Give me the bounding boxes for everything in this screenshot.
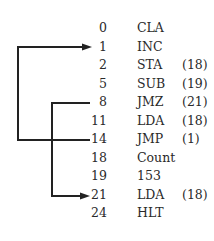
mnemonic: JMP bbox=[137, 130, 163, 148]
instruction-row: 5 SUB (19) bbox=[0, 75, 214, 93]
address: 2 bbox=[99, 56, 107, 74]
instruction-row: 21 LDA (18) bbox=[0, 186, 214, 204]
address: 1 bbox=[99, 38, 107, 56]
address: 21 bbox=[91, 186, 107, 204]
address: 19 bbox=[91, 167, 107, 185]
operand: (21) bbox=[182, 93, 208, 111]
address: 18 bbox=[91, 149, 107, 167]
instruction-row: 11 LDA (18) bbox=[0, 112, 214, 130]
mnemonic: CLA bbox=[137, 19, 164, 37]
mnemonic: INC bbox=[137, 38, 162, 56]
address: 8 bbox=[99, 93, 107, 111]
address: 5 bbox=[99, 75, 107, 93]
mnemonic: LDA bbox=[137, 112, 164, 130]
address: 11 bbox=[91, 112, 107, 130]
instruction-row: 18 Count bbox=[0, 149, 214, 167]
operand: (1) bbox=[182, 130, 200, 148]
address: 24 bbox=[91, 204, 107, 222]
instruction-row: 19 153 bbox=[0, 167, 214, 185]
mnemonic: STA bbox=[137, 56, 162, 74]
mnemonic: SUB bbox=[137, 75, 165, 93]
operand: (18) bbox=[182, 186, 208, 204]
operand: (18) bbox=[182, 112, 208, 130]
operand: (19) bbox=[182, 75, 208, 93]
address: 14 bbox=[91, 130, 107, 148]
address: 0 bbox=[99, 19, 107, 37]
instruction-row: 0 CLA bbox=[0, 19, 214, 37]
mnemonic: Count bbox=[137, 149, 175, 167]
operand: (18) bbox=[182, 56, 208, 74]
instruction-row: 2 STA (18) bbox=[0, 56, 214, 74]
instruction-row: 14 JMP (1) bbox=[0, 130, 214, 148]
mnemonic: LDA bbox=[137, 186, 164, 204]
instruction-row: 24 HLT bbox=[0, 204, 214, 222]
instruction-row: 8 JMZ (21) bbox=[0, 93, 214, 111]
mnemonic: 153 bbox=[137, 167, 161, 185]
mnemonic: JMZ bbox=[137, 93, 164, 111]
instruction-row: 1 INC bbox=[0, 38, 214, 56]
mnemonic: HLT bbox=[137, 204, 164, 222]
